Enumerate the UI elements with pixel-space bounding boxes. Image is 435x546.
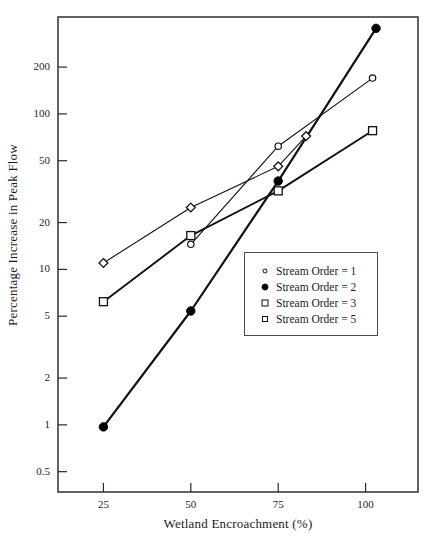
data-point-square-open [274,187,282,195]
marker-glyph [263,269,268,274]
legend-item-3[interactable]: Stream Order = 3 [257,295,356,311]
series-line [103,28,376,427]
legend-item-label: Stream Order = 5 [273,313,356,325]
data-point-square-open [369,127,377,135]
data-point-circle-filled [99,423,107,431]
data-point-circle-filled [187,307,195,315]
legend-item-1[interactable]: Stream Order = 1 [257,263,356,279]
data-point-diamond-open [186,203,195,212]
marker-glyph [262,284,269,291]
series-2 [99,24,380,431]
chart-figure: Percentage Increase in Peak Flow Wetland… [0,0,435,546]
legend-item-label: Stream Order = 1 [273,265,356,277]
data-point-diamond-open [99,259,108,268]
data-point-square-open [99,298,107,306]
data-point-circle-open [369,75,375,81]
legend-item-2[interactable]: Stream Order = 2 [257,279,356,295]
legend-item-label: Stream Order = 3 [273,297,356,309]
series-line [103,136,306,263]
diamond-open-icon [257,312,273,326]
circle-open-icon [257,264,273,278]
square-open-icon [257,296,273,310]
circle-filled-icon [257,280,273,294]
data-point-circle-open [275,143,281,149]
legend-items: Stream Order = 1Stream Order = 2Stream O… [257,263,356,327]
data-point-square-open [187,232,195,240]
data-point-circle-filled [274,177,282,185]
series-1 [188,75,376,248]
legend-box: Stream Order = 1Stream Order = 2Stream O… [244,252,378,336]
legend-item-4[interactable]: Stream Order = 5 [257,311,356,327]
data-point-circle-open [188,241,194,247]
legend-item-label: Stream Order = 2 [273,281,356,293]
data-point-circle-filled [372,24,380,32]
series-line [191,78,373,244]
series-4 [99,132,311,268]
marker-glyph [262,300,269,307]
marker-glyph [262,316,268,322]
